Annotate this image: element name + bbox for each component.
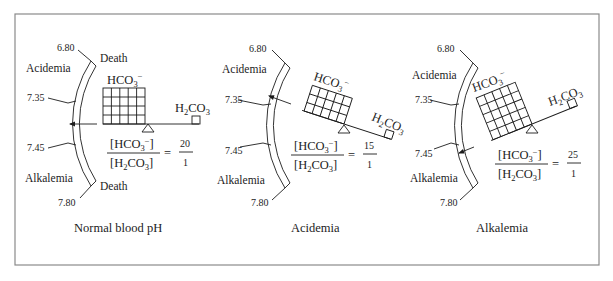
svg-text:15: 15 (364, 140, 374, 151)
svg-text:25: 25 (568, 149, 578, 160)
ph-balance-figure: 6.80 7.35 7.45 7.80 Acidemia Alkalemia D… (0, 0, 613, 281)
svg-text:[H2CO3]: [H2CO3] (294, 158, 337, 174)
tick-7-35: 7.35 (27, 92, 45, 103)
panel-alkalemia: 6.80 7.35 7.45 7.80 Acidemia Alkalemia H (410, 43, 585, 235)
zone-label-acidemia: Acidemia (222, 63, 267, 75)
fulcrum-icon (142, 124, 154, 132)
tick-7-80: 7.80 (251, 197, 269, 208)
ph-gauge-arc (267, 63, 290, 188)
zone-label-acidemia: Acidemia (412, 69, 457, 81)
fulcrum-icon (526, 125, 538, 133)
bicarbonate-label: HCO3− (107, 71, 143, 89)
carbonic-acid-label: H2CO3 (175, 101, 210, 117)
carbonic-acid-block (192, 116, 200, 124)
end-label-death-top: Death (100, 52, 128, 64)
svg-text:[HCO3−]: [HCO3−] (294, 138, 338, 155)
bicarbonate-block-grid (304, 85, 352, 124)
tick-7-45: 7.45 (225, 145, 243, 156)
ratio-equation: [HCO3−] [H2CO3] = 20 1 (107, 136, 193, 172)
tick-7-35: 7.35 (415, 94, 433, 105)
panel-acidemia: 6.80 7.35 7.45 7.80 Acidemia Alkalemia H… (217, 43, 407, 235)
svg-text:[HCO3−]: [HCO3−] (498, 147, 542, 164)
panel-caption: Alkalemia (476, 221, 529, 235)
svg-text:[HCO3−]: [HCO3−] (110, 136, 154, 153)
tick-6-80: 6.80 (57, 42, 75, 53)
tick-7-35: 7.35 (225, 94, 243, 105)
svg-text:1: 1 (367, 159, 372, 170)
fulcrum-icon (338, 125, 350, 133)
tick-6-80: 6.80 (249, 43, 267, 54)
svg-text:20: 20 (180, 138, 190, 149)
zone-label-alkalemia: Alkalemia (217, 174, 265, 186)
tick-6-80: 6.80 (437, 43, 455, 54)
tick-7-80: 7.80 (58, 197, 76, 208)
svg-text:[H2CO3]: [H2CO3] (498, 167, 541, 183)
zone-label-acidemia: Acidemia (26, 62, 71, 74)
ph-gauge-arc (73, 61, 96, 186)
zone-label-alkalemia: Alkalemia (25, 172, 73, 184)
ratio-equation: [HCO3−] [H2CO3] = 25 1 (495, 147, 581, 183)
svg-text:1: 1 (183, 157, 188, 168)
panel-normal: 6.80 7.35 7.45 7.80 Acidemia Alkalemia D… (25, 42, 210, 235)
bicarbonate-block-grid (103, 88, 145, 124)
zone-label-alkalemia: Alkalemia (410, 172, 458, 184)
balance-scale (302, 85, 400, 140)
svg-text:1: 1 (571, 168, 576, 179)
end-label-death-bottom: Death (100, 180, 128, 192)
panel-caption: Normal blood pH (74, 221, 162, 235)
svg-text:=: = (552, 157, 559, 171)
carbonic-acid-label: H2CO3 (369, 110, 407, 138)
ratio-equation: [HCO3−] [H2CO3] = 15 1 (291, 138, 377, 174)
panel-caption: Acidemia (291, 221, 340, 235)
svg-text:[H2CO3]: [H2CO3] (110, 156, 153, 172)
carbonic-acid-label: H2CO3 (546, 84, 584, 111)
tick-7-45: 7.45 (415, 148, 433, 159)
svg-text:=: = (164, 146, 171, 160)
svg-text:=: = (348, 148, 355, 162)
tick-7-80: 7.80 (440, 197, 458, 208)
tick-7-45: 7.45 (27, 142, 45, 153)
